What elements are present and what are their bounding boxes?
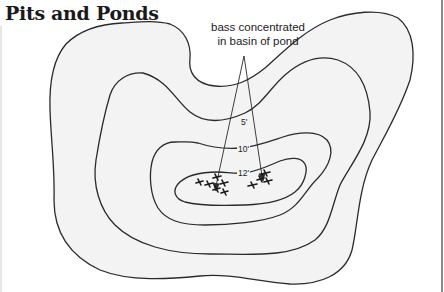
depth-label-12ft: 12': [237, 169, 250, 178]
annotation-line-2: in basin of pond: [203, 34, 313, 48]
diagram-frame: Pits and Ponds: [0, 0, 444, 292]
depth-label-10ft: 10': [237, 145, 250, 154]
annotation-line-1: bass concentrated: [203, 20, 313, 34]
bass-annotation: bass concentrated in basin of pond: [203, 20, 313, 48]
depth-label-5ft: 5': [240, 118, 248, 127]
